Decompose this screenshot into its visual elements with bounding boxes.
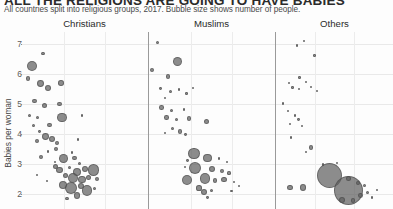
bubble [313,54,315,56]
panel-title-others: Others [276,18,393,29]
bubble [46,180,48,182]
bubble [41,52,45,56]
bubble [346,176,351,181]
bubble [82,185,92,195]
bubble [159,105,163,109]
chart-subtitle: All countries split into religious group… [4,5,300,14]
bubble [32,99,36,103]
y-tick-label: 2 [8,189,22,199]
bubble [201,189,207,195]
chart-page: ALL THE RELIGIONS ARE GOING TO HAVE BABI… [0,0,393,209]
bubble [218,157,220,159]
bubble [26,76,30,80]
bubble [305,81,307,83]
bubble [233,181,236,184]
bubble [28,114,32,118]
bubble [288,82,291,85]
bubble [78,162,81,165]
bubble [74,192,80,198]
gridline-horizontal [22,104,393,105]
bubble [49,136,55,142]
bubble [238,185,240,187]
bubble [220,169,224,173]
y-tick-label: 5 [8,99,22,109]
bubble [290,136,292,138]
bubble [296,44,298,46]
bubble [150,68,154,72]
plot-area [22,32,393,209]
panel-divider [148,32,149,209]
bubble [185,92,188,95]
panel-divider [275,32,276,209]
bubble [68,166,71,169]
bubble [297,118,300,121]
bubble [221,177,226,182]
gridline-horizontal [22,134,393,135]
bubble [339,197,345,203]
bubble [88,164,99,175]
bubble [230,190,232,192]
bubble [56,167,63,174]
bubble [77,138,79,140]
bubble [164,115,168,119]
bubble [210,189,213,192]
bubble [298,88,300,90]
bubble [213,178,217,182]
bubble [93,187,97,191]
y-tick-label: 4 [8,129,22,139]
panel-title-muslims: Muslims [149,18,274,29]
bubble [203,154,212,163]
bubble [371,196,374,199]
bubble [36,174,38,176]
bubble [55,141,59,145]
bubble [192,87,194,89]
bubble [81,114,83,116]
bubble [184,133,187,136]
bubble [294,114,296,116]
bubble [183,108,186,111]
bubble [82,166,88,172]
bubble [37,80,44,87]
bubble [58,80,64,86]
bubble [164,97,166,99]
bubble [282,102,284,104]
bubble [170,109,173,112]
gridline-horizontal [22,44,393,45]
bubble [227,171,230,174]
bubble [182,175,192,185]
bubble [38,130,41,133]
y-tick-label: 7 [8,39,22,49]
bubble [189,162,201,174]
bubble [39,155,43,159]
bubble [226,161,228,163]
bubble [188,148,199,159]
bubble [78,176,85,183]
gridline-vertical [105,32,106,209]
bubble [169,90,172,93]
bubble [184,166,186,168]
bubble [54,147,58,151]
bubble [178,88,180,90]
bubble [42,103,47,108]
bubble [186,159,189,162]
panel-title-christians: Christians [22,18,147,29]
bubble [95,177,99,181]
y-tick-label: 3 [8,159,22,169]
bubble [57,113,66,122]
y-tick-label: 6 [8,69,22,79]
bubble [303,40,305,42]
bubble [65,197,68,200]
bubble [86,175,91,180]
bubble [47,150,49,152]
gridline-horizontal [22,74,393,75]
bubble [175,118,179,122]
bubble [47,123,52,128]
bubble [173,57,183,67]
bubble [204,119,210,125]
bubble [289,123,291,125]
bubble [298,76,300,78]
bubble [36,116,39,119]
bubble [71,151,74,154]
bubble [209,166,215,172]
bubble [27,61,37,71]
